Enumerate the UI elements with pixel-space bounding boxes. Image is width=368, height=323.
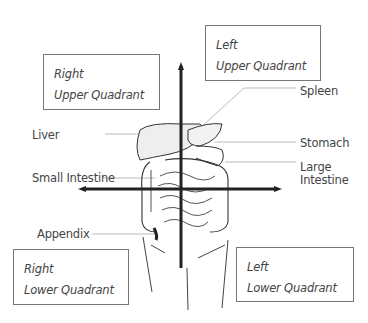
quadrant-label-line2: Upper Quadrant bbox=[54, 85, 159, 106]
quadrant-box-right-upper: Right Upper Quadrant bbox=[43, 54, 160, 110]
organ-label-large-intestine-2: Intestine bbox=[300, 174, 349, 187]
organ-label-appendix: Appendix bbox=[37, 228, 90, 241]
quadrant-label-line1: Left bbox=[216, 35, 320, 56]
organ-label-stomach: Stomach bbox=[300, 137, 349, 150]
quadrant-box-left-lower: Left Lower Quadrant bbox=[236, 247, 354, 302]
organ-label-spleen: Spleen bbox=[300, 85, 338, 98]
quadrant-box-right-lower: Right Lower Quadrant bbox=[13, 249, 129, 305]
quadrant-label-line2: Lower Quadrant bbox=[24, 280, 128, 301]
quadrant-label-line2: Upper Quadrant bbox=[216, 56, 320, 77]
quadrant-label-line2: Lower Quadrant bbox=[247, 278, 353, 299]
organ-label-small-intestine: Small Intestine bbox=[32, 172, 115, 185]
quadrant-label-line1: Right bbox=[54, 64, 159, 85]
quadrant-label-line1: Left bbox=[247, 257, 353, 278]
quadrant-box-left-upper: Left Upper Quadrant bbox=[205, 25, 321, 81]
organ-label-liver: Liver bbox=[32, 129, 59, 142]
quadrant-label-line1: Right bbox=[24, 259, 128, 280]
